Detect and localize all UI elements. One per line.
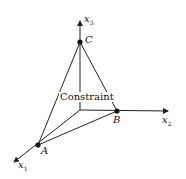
point-b-label: B (113, 115, 120, 125)
x3-axis-label: x3 (84, 14, 93, 26)
point-b (114, 108, 119, 113)
point-a-label: A (41, 146, 48, 156)
point-c (77, 39, 82, 44)
constraint-diagram: x3 x2 x1 C B A Constraint (0, 0, 186, 179)
x2-axis (80, 110, 168, 111)
point-c-label: C (85, 35, 93, 45)
diagram-lines (0, 0, 186, 179)
x2-axis-label: x2 (162, 115, 171, 127)
point-a (35, 142, 40, 147)
x1-axis-label: x1 (18, 160, 27, 172)
constraint-label: Constraint (59, 92, 115, 102)
